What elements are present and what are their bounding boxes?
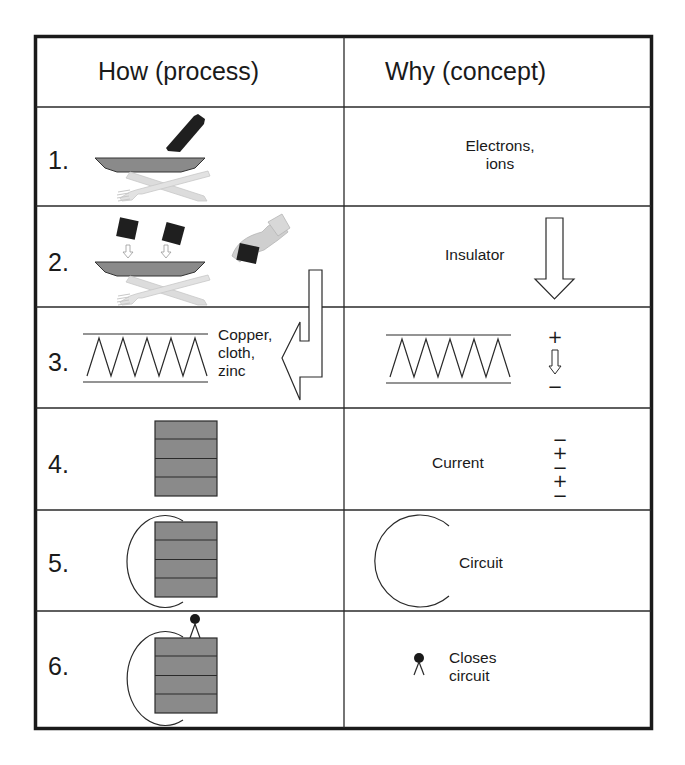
- row-number-1: 1.: [48, 146, 69, 175]
- header-how: How (process): [98, 57, 259, 86]
- falling-plates-figure: [95, 217, 210, 305]
- row-number-2: 2.: [48, 248, 69, 277]
- row-1-why-label: Electrons, ions: [425, 137, 575, 173]
- battery-closed-circuit-figure-6: [127, 614, 217, 726]
- plate-cutlery-figure-1: [95, 158, 210, 201]
- row-number-6: 6.: [48, 652, 69, 681]
- row-3-how-label: Copper, cloth, zinc: [218, 326, 272, 379]
- plus-sign-top: +: [546, 328, 564, 346]
- open-arc-figure: [375, 515, 449, 607]
- row-2-why-label: Insulator: [445, 246, 504, 264]
- minus-sign-bottom: −: [546, 378, 564, 396]
- row-6-why-label: Closes circuit: [449, 649, 496, 685]
- row-4-why-label: Current: [432, 454, 484, 472]
- battery-circuit-figure-5: [127, 516, 217, 608]
- zigzag-pile-polarity-figure: [386, 335, 561, 383]
- hand-holding-plate-figure: [232, 214, 290, 264]
- row-5-why-label: Circuit: [459, 554, 503, 572]
- diagram-canvas: [0, 0, 685, 765]
- polarity-sign-5: −: [551, 487, 569, 505]
- down-arrow-figure: [535, 218, 574, 299]
- bottle-pouring-figure: [166, 114, 205, 152]
- contact-pin-figure: [414, 653, 424, 675]
- l-shaped-arrow: [282, 270, 322, 400]
- row-number-4: 4.: [48, 450, 69, 479]
- header-why: Why (concept): [385, 57, 546, 86]
- row-number-3: 3.: [48, 348, 69, 377]
- battery-stack-figure-4: [155, 421, 217, 496]
- zigzag-pile-figure: [83, 334, 208, 382]
- row-number-5: 5.: [48, 549, 69, 578]
